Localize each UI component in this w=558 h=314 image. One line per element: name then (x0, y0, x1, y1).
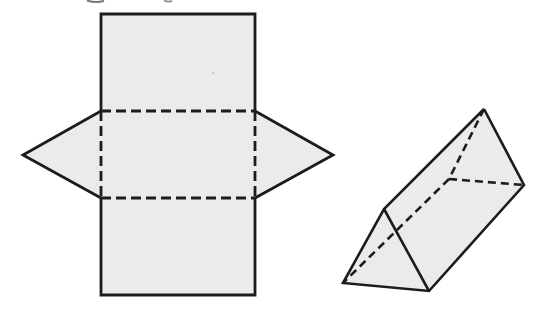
cropped-text-artifacts-edge (87, 1, 104, 3)
triangular-prism-diagram (0, 0, 558, 314)
prism-3d-figure (343, 109, 524, 291)
cropped-text-artifacts-edge (212, 72, 214, 74)
cropped-text-artifacts-edge (164, 1, 172, 2)
prism-3d-figure-fill (343, 109, 524, 291)
prism-net-figure (23, 14, 333, 295)
geometry-diagram-page (0, 0, 558, 314)
prism-net-figure-fill (23, 14, 333, 295)
